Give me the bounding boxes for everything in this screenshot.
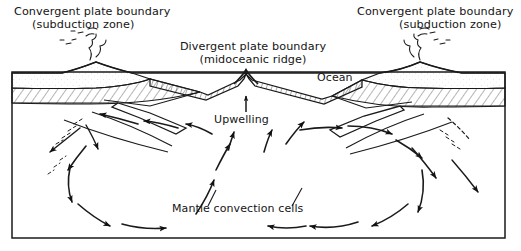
slab-descent-arrows-right (440, 118, 478, 192)
label-left-convergent-line1: Convergent plate boundary (14, 5, 170, 18)
continental-crust-left (12, 62, 200, 104)
slab-descent-arrows-left (48, 119, 98, 174)
ash-plume-right-icon (404, 28, 450, 60)
label-divergent-line2: (midoceanic ridge) (173, 53, 333, 66)
label-right-convergent-line2: (subduction zone) (357, 18, 513, 31)
label-divergent-boundary: Divergent plate boundary (midoceanic rid… (173, 40, 333, 66)
label-upwelling: Upwelling (214, 114, 269, 127)
label-divergent-line1: Divergent plate boundary (173, 40, 333, 53)
label-ocean: Ocean (317, 72, 353, 85)
label-left-convergent-boundary: Convergent plate boundary (subduction zo… (14, 5, 170, 31)
diagram-canvas: Convergent plate boundary (subduction zo… (0, 0, 521, 251)
ash-plume-left-icon (60, 28, 106, 60)
label-left-convergent-line2: (subduction zone) (14, 18, 170, 31)
label-right-convergent-line1: Convergent plate boundary (357, 5, 513, 18)
label-right-convergent-boundary: Convergent plate boundary (subduction zo… (357, 5, 513, 31)
label-mantle-convection-cells: Mantle convection cells (172, 203, 303, 216)
